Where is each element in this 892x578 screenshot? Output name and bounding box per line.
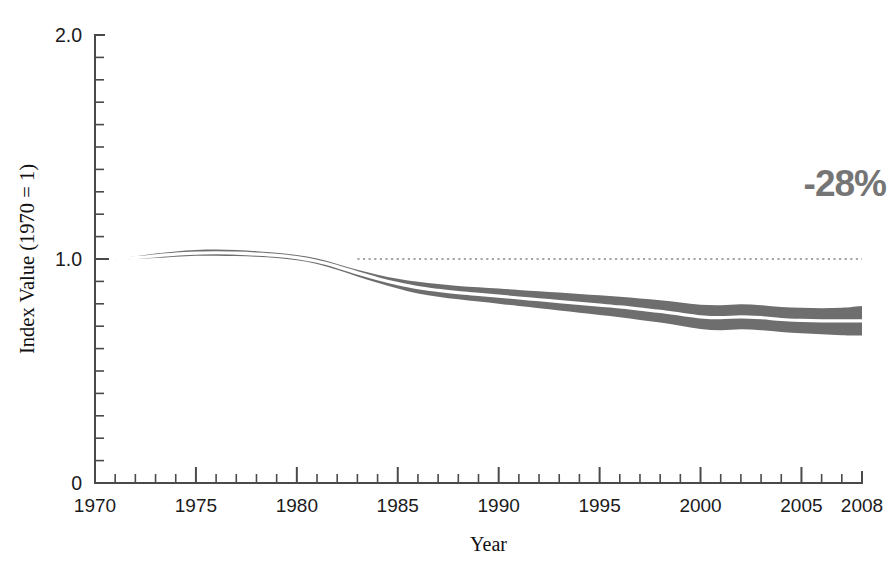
y-tick-label: 1.0 (55, 248, 82, 270)
x-tick-label: 1970 (74, 495, 116, 516)
percent-change-annotation: -28% (804, 163, 886, 204)
chart-figure: 2.01.00 19701975198019851990199520002005… (0, 0, 892, 578)
y-tick-label: 2.0 (55, 24, 82, 46)
x-axis-tick-labels: 197019751980198519901995200020052008 (74, 495, 883, 516)
x-tick-label: 2000 (679, 495, 721, 516)
x-tick-label: 1995 (578, 495, 620, 516)
x-tick-label: 1990 (478, 495, 520, 516)
confidence-band (115, 250, 862, 336)
y-axis-tick-labels: 2.01.00 (55, 24, 82, 494)
x-tick-label: 1980 (276, 495, 318, 516)
x-tick-label: 2008 (841, 495, 883, 516)
x-axis-minor-ticks (115, 474, 842, 483)
index-value-line-chart: 2.01.00 19701975198019851990199520002005… (0, 0, 892, 578)
x-tick-label: 1975 (175, 495, 217, 516)
x-axis-major-ticks (95, 467, 801, 483)
x-tick-label: 1985 (377, 495, 419, 516)
x-axis-title: Year (470, 533, 507, 555)
x-tick-label: 2005 (780, 495, 822, 516)
y-axis-title: Index Value (1970 = 1) (16, 164, 39, 354)
y-tick-label: 0 (71, 472, 82, 494)
